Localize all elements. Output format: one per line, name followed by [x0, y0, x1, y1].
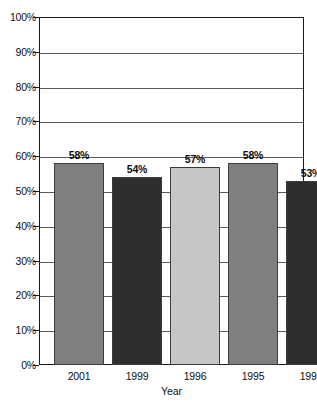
bar-value-1995: 58% — [228, 150, 278, 161]
bar-chart: 100% 90% 80% 70% 60% 50% 40% 30% 20% 10%… — [0, 0, 317, 414]
y-tick-label-80: 80% — [0, 82, 36, 92]
x-tick-label-1993: 1993 — [286, 370, 317, 382]
y-tick-label-20: 20% — [0, 290, 36, 300]
bar-value-2001: 58% — [54, 150, 104, 161]
y-tick-label-10: 10% — [0, 325, 36, 335]
x-axis-title: Year — [39, 385, 304, 397]
bar-1995[interactable] — [228, 163, 278, 365]
bar-1993[interactable] — [286, 181, 317, 365]
x-tick-label-1999: 1999 — [112, 370, 162, 382]
y-tick-label-70: 70% — [0, 116, 36, 126]
x-tick-label-1995: 1995 — [228, 370, 278, 382]
bar-1999[interactable] — [112, 177, 162, 365]
y-tick-label-40: 40% — [0, 221, 36, 231]
bar-value-1999: 54% — [112, 164, 162, 175]
bar-value-1993: 53% — [286, 168, 317, 179]
bar-1996[interactable] — [170, 167, 220, 365]
x-tick-label-1996: 1996 — [170, 370, 220, 382]
x-tick-label-2001: 2001 — [54, 370, 104, 382]
bar-2001[interactable] — [54, 163, 104, 365]
y-tick-label-90: 90% — [0, 47, 36, 57]
y-tick-label-0: 0% — [0, 360, 36, 370]
y-tick-label-50: 50% — [0, 186, 36, 196]
bars-layer — [39, 17, 304, 365]
bar-value-1996: 57% — [170, 154, 220, 165]
y-tick-label-30: 30% — [0, 256, 36, 266]
y-tick-label-60: 60% — [0, 151, 36, 161]
y-tick-label-100: 100% — [0, 12, 36, 22]
